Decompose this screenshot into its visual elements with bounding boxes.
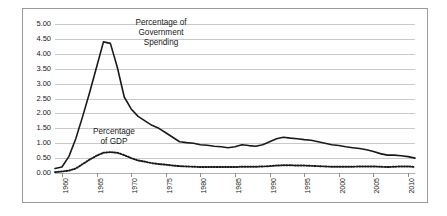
x-axis-tick-label: 1960 — [62, 178, 70, 194]
x-axis-tick-mark — [270, 173, 271, 177]
x-axis-tick-label: 1990 — [270, 178, 278, 194]
x-axis-tick-mark — [62, 173, 63, 177]
y-axis-tick-label: 0.50 — [36, 154, 51, 162]
y-axis-tick-label: 2.50 — [36, 95, 51, 103]
x-axis-tick-mark — [304, 173, 305, 177]
chart-figure: 5.004.504.003.503.002.502.001.501.000.50… — [0, 0, 447, 216]
x-axis-tick-mark — [373, 173, 374, 177]
x-axis-tick-label: 1975 — [166, 178, 174, 194]
series-layer — [55, 24, 415, 173]
x-axis-tick-mark — [235, 173, 236, 177]
y-axis-tick-label: 1.50 — [36, 124, 51, 132]
x-axis: 1960196519701975198019851990199520002005… — [55, 173, 415, 203]
x-axis-tick-label: 2000 — [339, 178, 347, 194]
y-axis: 5.004.504.003.503.002.502.001.501.000.50… — [22, 24, 53, 173]
x-axis-tick-mark — [200, 173, 201, 177]
x-axis-tick-mark — [131, 173, 132, 177]
y-axis-tick-label: 1.00 — [36, 139, 51, 147]
series-line-government-spending — [55, 42, 415, 169]
x-axis-tick-mark — [408, 173, 409, 177]
annotation-government-spending: Percentage of Government Spending — [118, 18, 204, 48]
x-axis-tick-label: 1985 — [235, 178, 243, 194]
x-axis-tick-label: 1995 — [304, 178, 312, 194]
y-axis-tick-label: 2.00 — [36, 109, 51, 117]
x-axis-tick-label: 1965 — [97, 178, 105, 194]
x-axis-tick-mark — [166, 173, 167, 177]
x-axis-tick-label: 1980 — [200, 178, 208, 194]
y-axis-tick-label: 3.00 — [36, 80, 51, 88]
series-line-gdp — [55, 152, 415, 172]
y-axis-tick-label: 4.00 — [36, 50, 51, 58]
x-axis-tick-label: 2005 — [373, 178, 381, 194]
x-axis-tick-label: 2010 — [408, 178, 416, 194]
x-axis-tick-mark — [97, 173, 98, 177]
annotation-gdp: Percentage of GDP — [78, 127, 150, 147]
x-axis-tick-label: 1970 — [131, 178, 139, 194]
y-axis-tick-label: 3.50 — [36, 65, 51, 73]
x-axis-tick-mark — [339, 173, 340, 177]
y-axis-tick-label: 4.50 — [36, 35, 51, 43]
y-axis-tick-label: 0.00 — [36, 169, 51, 177]
plot-area — [55, 24, 415, 173]
y-axis-tick-label: 5.00 — [36, 20, 51, 28]
